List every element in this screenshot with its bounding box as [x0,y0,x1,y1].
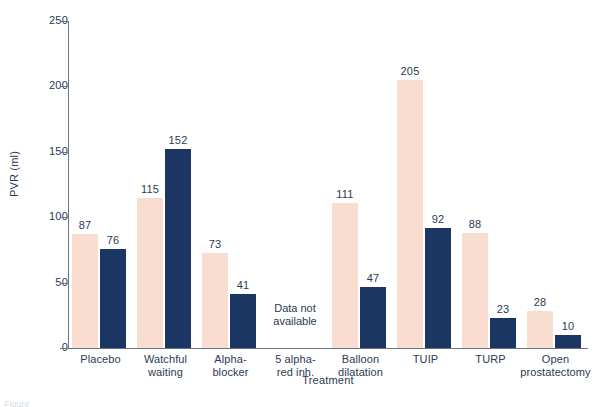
bar-value-label: 87 [65,220,105,231]
x-category-label: Openprostatectomy [513,353,599,379]
y-tick-mark-200 [60,86,68,87]
y-tick-0: 0 [0,348,68,349]
y-tick-mark-250 [60,21,68,22]
x-axis-title: Treatment [288,374,368,386]
bar-value-label: 41 [223,280,263,291]
figure-caption: Figure [4,399,604,407]
na-line-1: Data not [257,302,333,315]
bar-group: 20592 [393,21,458,348]
y-tick-mark-0 [60,348,68,349]
bar-series-b [230,294,256,348]
bar-value-label: 115 [130,184,170,195]
bar-series-b [100,249,126,348]
bar-group: 8776 [68,21,133,348]
bar-group: Data notavailable [263,21,328,348]
na-line-2: available [257,315,333,328]
bar-value-label: 10 [548,321,588,332]
bar-value-label: 76 [93,235,133,246]
bar-group: 11147 [328,21,393,348]
y-tick-50: 50 [0,283,68,284]
bar-series-a [72,234,98,348]
data-not-available-note: Data notavailable [257,302,333,328]
bar-value-label: 73 [195,239,235,250]
bar-series-b [490,318,516,348]
bar-value-label: 28 [520,297,560,308]
bar-value-label: 205 [390,66,430,77]
y-tick-100: 100 [0,217,68,218]
y-axis-title: PVR (ml) [8,134,20,214]
bar-value-label: 92 [418,214,458,225]
bar-value-label: 47 [353,273,393,284]
y-tick-mark-150 [60,152,68,153]
bar-group: 8823 [458,21,523,348]
y-tick-250: 250 [0,21,68,22]
y-tick-mark-50 [60,283,68,284]
y-tick-200: 200 [0,86,68,87]
y-tick-150: 150 [0,152,68,153]
bar-series-a [137,198,163,348]
bar-series-b [165,149,191,348]
y-tick-mark-100 [60,217,68,218]
bar-series-b [425,228,451,348]
bar-series-a [462,233,488,348]
bar-value-label: 152 [158,135,198,146]
x-category-label-line: prostatectomy [513,366,599,379]
bar-value-label: 88 [455,219,495,230]
bar-series-a [202,253,228,348]
bar-value-label: 111 [325,189,365,200]
pvr-bar-chart: PVR (ml) 0 50 100 150 200 250 877611515 [0,0,610,407]
bar-series-b [360,287,386,348]
x-category-label-line: Open [513,353,599,366]
x-axis-line [68,348,588,349]
plot-area: 87761151527341Data notavailable111472059… [68,21,588,348]
bar-group: 7341 [198,21,263,348]
bar-value-label: 23 [483,304,523,315]
bar-group: 2810 [523,21,588,348]
bar-series-b [555,335,581,348]
bar-group: 115152 [133,21,198,348]
